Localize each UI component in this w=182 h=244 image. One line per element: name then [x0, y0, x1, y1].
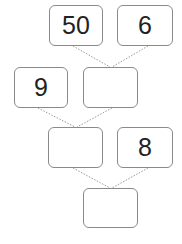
connector-50-to-mid	[73, 46, 110, 67]
box-top-right: 6	[117, 5, 173, 46]
box-bottom-empty[interactable]	[83, 188, 138, 228]
box-mid-left: 9	[14, 67, 68, 108]
box-lower-left-empty[interactable]	[48, 127, 103, 168]
connector-8-to-bottom	[112, 168, 148, 188]
connector-lower-to-bottom	[73, 168, 110, 188]
connector-9-to-lower	[38, 108, 75, 127]
box-top-left: 50	[49, 5, 103, 46]
box-mid-right-empty[interactable]	[83, 67, 138, 108]
connector-mid-to-lower	[77, 108, 112, 127]
box-lower-right: 8	[117, 127, 173, 168]
connector-6-to-mid	[112, 46, 148, 67]
